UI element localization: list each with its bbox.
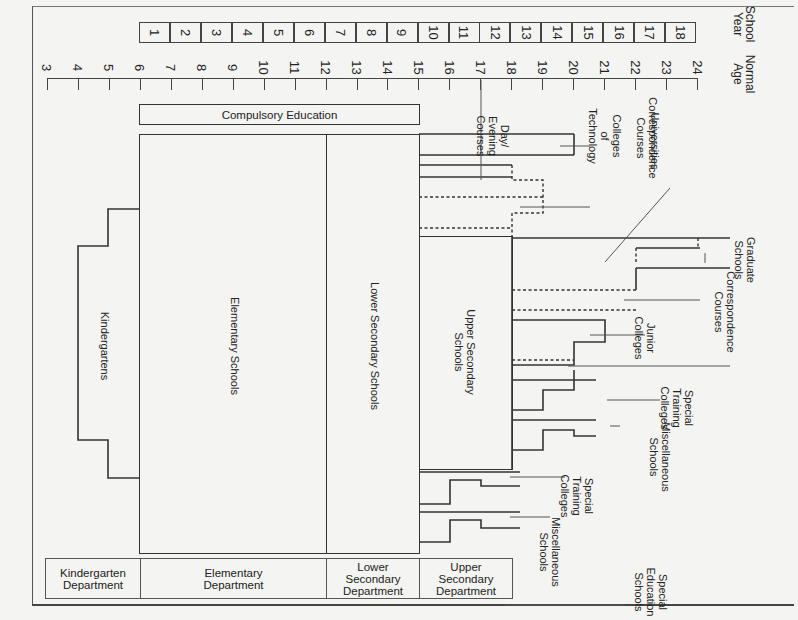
lower-secondary-department: Lower Secondary Department <box>326 558 420 599</box>
kindergartens-label: Kindergartens <box>99 301 111 391</box>
lower-secondary-schools-label: Lower Secondary Schools <box>369 281 381 411</box>
miscellaneous-schools-1-label: Miscellaneous Schools <box>648 417 672 497</box>
correspondence-courses-univ-label: Correspondence Courses <box>713 267 737 357</box>
universities-label: Universities <box>649 106 661 176</box>
upper-secondary-schools-label: Upper Secondary Schools <box>453 307 477 397</box>
elementary-schools-label: Elementary Schools <box>229 296 241 396</box>
elementary-department: Elementary Department <box>140 558 327 599</box>
upper-secondary-department: Upper Secondary Department <box>419 558 513 599</box>
kindergarten-department: Kindergarten Department <box>45 558 141 599</box>
special-training-colleges-2-label: Special Training Colleges <box>559 469 595 523</box>
colleges-of-technology-label: Colleges of Technology <box>587 106 623 166</box>
special-education-schools-label: Special Education Schools <box>633 559 669 620</box>
day-evening-courses-label: Day/ Evening Courses <box>475 113 511 159</box>
junior-colleges-label: Junior Colleges <box>633 313 657 363</box>
miscellaneous-schools-2-label: Miscellaneous Schools <box>538 512 562 592</box>
